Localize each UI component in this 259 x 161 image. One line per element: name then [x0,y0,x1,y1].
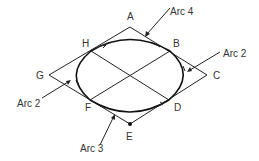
arrowhead-arc2-right [187,67,192,72]
label-c: C [213,70,220,81]
label-g: G [36,70,44,81]
leader-arc2-left [42,82,68,98]
label-f: F [85,102,91,113]
label-e: E [126,131,133,142]
leader-arc4 [147,8,170,34]
label-d: D [174,102,181,113]
callout-arc2-right: Arc 2 [223,48,247,59]
leader-arc3 [100,118,113,145]
callout-arc3: Arc 3 [80,143,104,154]
callout-arc4: Arc 4 [170,6,194,17]
label-b: B [173,38,180,49]
arrowhead-arc2-left [66,80,71,85]
callout-arc2-left: Arc 2 [17,98,41,109]
label-a: A [127,11,134,22]
leader-arc2-right [190,52,220,70]
arc-bottom [90,100,169,112]
label-h: H [82,38,89,49]
point-e-dot [128,122,132,126]
isometric-ellipse-diagram: A B C D E F G H Arc 4 Arc 2 Arc 2 Arc 3 [0,0,259,161]
